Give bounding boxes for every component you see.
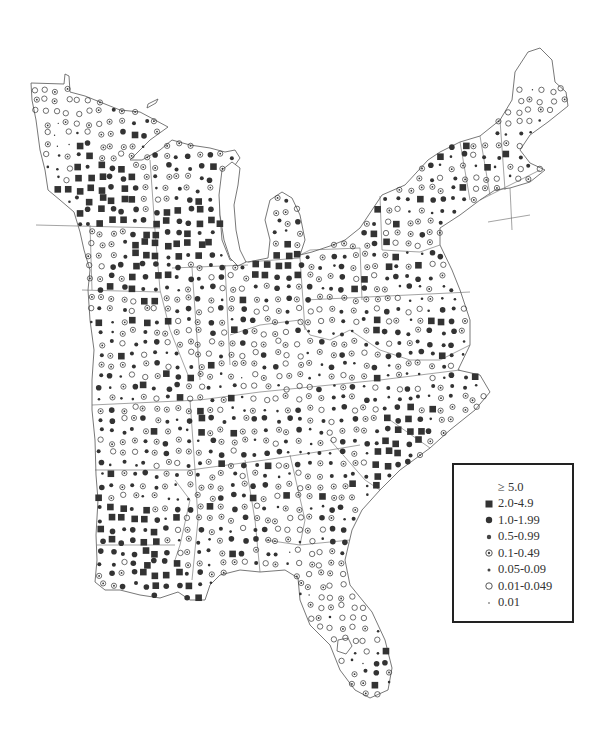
symbol-medium-filled-dot	[134, 581, 138, 585]
symbol-medium-filled-dot	[145, 119, 149, 123]
symbol-medium-filled-dot	[329, 461, 333, 465]
symbol-medium-filled-dot	[397, 341, 401, 345]
symbol-medium-filled-dot	[77, 152, 81, 156]
symbol-medium-filled-dot	[130, 483, 134, 487]
symbol-medium-filled-dot	[450, 353, 454, 357]
symbol-large-filled-dot	[319, 515, 325, 521]
symbol-medium-filled-dot	[409, 351, 413, 355]
symbol-medium-filled-dot	[385, 277, 389, 281]
symbol-medium-filled-dot	[123, 255, 127, 259]
symbol-small-filled-dot	[68, 200, 71, 203]
symbol-medium-filled-dot	[141, 461, 145, 465]
symbol-large-filled-dot	[154, 517, 160, 523]
symbol-large-filled-dot	[197, 569, 203, 575]
symbol-filled-square	[386, 447, 393, 454]
symbol-medium-filled-dot	[264, 428, 268, 432]
symbol-medium-filled-dot	[365, 310, 369, 314]
symbol-medium-filled-dot	[197, 550, 201, 554]
symbol-filled-square	[374, 317, 381, 324]
symbol-medium-filled-dot	[133, 219, 137, 223]
symbol-filled-square	[187, 375, 194, 382]
symbol-filled-square	[177, 394, 184, 401]
symbol-medium-filled-dot	[343, 255, 347, 259]
symbol-small-filled-dot	[310, 507, 313, 510]
symbol-medium-filled-dot	[451, 196, 455, 200]
symbol-medium-filled-dot	[406, 332, 410, 336]
symbol-medium-filled-dot	[175, 309, 179, 313]
symbol-small-filled-dot	[387, 396, 390, 399]
symbol-small-filled-dot	[120, 397, 123, 400]
symbol-filled-square	[77, 143, 84, 150]
symbol-medium-filled-dot	[175, 167, 179, 171]
symbol-filled-square	[395, 426, 402, 433]
symbol-large-filled-dot	[250, 483, 256, 489]
symbol-filled-square	[152, 573, 159, 580]
symbol-large-filled-dot	[184, 595, 190, 601]
symbol-medium-filled-dot	[175, 352, 179, 356]
symbol-small-filled-dot	[428, 394, 431, 397]
symbol-large-filled-dot	[98, 548, 104, 554]
symbol-large-filled-dot	[396, 352, 402, 358]
symbol-medium-filled-dot	[383, 197, 387, 201]
symbol-large-filled-dot	[185, 153, 191, 159]
symbol-medium-filled-dot	[219, 354, 223, 358]
symbol-small-filled-dot	[177, 289, 180, 292]
symbol-large-filled-dot	[295, 219, 301, 225]
symbol-large-filled-dot	[339, 352, 345, 358]
symbol-small-filled-dot	[119, 375, 122, 378]
symbol-large-filled-dot	[107, 373, 113, 379]
symbol-large-filled-dot	[342, 540, 348, 546]
symbol-small-filled-dot	[427, 309, 430, 312]
symbol-small-filled-dot	[76, 132, 79, 135]
symbol-medium-filled-dot	[242, 494, 246, 498]
symbol-large-filled-dot	[361, 230, 367, 236]
symbol-tiny-dot	[532, 89, 533, 90]
symbol-large-filled-dot	[163, 525, 169, 531]
symbol-medium-filled-dot	[416, 339, 420, 343]
symbol-filled-square	[373, 327, 380, 334]
symbol-small-filled-dot	[308, 377, 311, 380]
symbol-large-filled-dot	[141, 133, 147, 139]
symbol-medium-filled-dot	[497, 156, 501, 160]
symbol-filled-square	[77, 210, 84, 217]
symbol-filled-square	[133, 263, 140, 270]
symbol-filled-square	[95, 494, 102, 501]
symbol-medium-filled-dot	[387, 474, 391, 478]
symbol-medium-filled-dot	[449, 394, 453, 398]
symbol-medium-filled-dot	[394, 264, 398, 268]
symbol-filled-square	[152, 582, 159, 589]
tiny-dot-icon	[484, 598, 494, 608]
symbol-large-filled-dot	[187, 197, 193, 203]
symbol-medium-filled-dot	[482, 155, 486, 159]
symbol-medium-filled-dot	[155, 475, 159, 479]
symbol-filled-square	[417, 196, 424, 203]
symbol-medium-filled-dot	[285, 321, 289, 325]
symbol-filled-square	[152, 232, 159, 239]
symbol-filled-square	[463, 143, 470, 150]
symbol-large-filled-dot	[175, 265, 181, 271]
symbol-large-filled-dot	[316, 387, 322, 393]
symbol-medium-filled-dot	[372, 253, 376, 257]
symbol-small-filled-dot	[462, 353, 465, 356]
symbol-large-filled-dot	[286, 275, 292, 281]
legend-item: ≥ 5.0	[484, 479, 572, 496]
symbol-medium-filled-dot	[284, 439, 288, 443]
symbol-small-filled-dot	[399, 285, 402, 288]
symbol-small-filled-dot	[254, 439, 257, 442]
symbol-large-filled-dot	[395, 330, 401, 336]
symbol-large-filled-dot	[118, 209, 124, 215]
symbol-small-filled-dot	[177, 498, 180, 501]
symbol-medium-filled-dot	[252, 453, 256, 457]
symbol-filled-square	[207, 503, 214, 510]
symbol-large-filled-dot	[122, 284, 128, 290]
symbol-medium-filled-dot	[451, 185, 455, 189]
symbol-large-filled-dot	[319, 339, 325, 345]
symbol-medium-filled-dot	[462, 197, 466, 201]
symbol-filled-square	[393, 221, 400, 228]
symbol-small-filled-dot	[387, 374, 390, 377]
symbol-filled-square	[184, 239, 191, 246]
symbol-filled-square	[98, 162, 105, 169]
symbol-medium-filled-dot	[198, 231, 202, 235]
symbol-small-filled-dot	[439, 164, 442, 167]
symbol-medium-filled-dot	[187, 464, 191, 468]
